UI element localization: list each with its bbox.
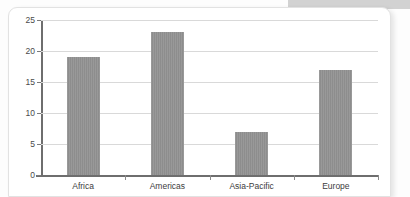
x-axis-line: [36, 175, 378, 177]
gridline: [41, 51, 378, 52]
y-axis-line: [41, 20, 43, 175]
x-axis-category-label: Americas: [125, 182, 209, 191]
y-axis-tick: [37, 144, 41, 145]
bar: [235, 132, 268, 175]
bar-chart-plot-area: 0510152025 AfricaAmericasAsia-PacificEur…: [41, 20, 378, 175]
y-axis-tick: [37, 51, 41, 52]
y-axis-tick-label: 10: [26, 109, 35, 118]
x-axis-category-label: Europe: [294, 182, 378, 191]
y-axis-tick: [37, 20, 41, 21]
x-axis-category-label: Africa: [41, 182, 125, 191]
bar: [67, 57, 100, 175]
y-axis-tick: [37, 82, 41, 83]
y-axis-tick-label: 20: [26, 47, 35, 56]
y-axis-tick-label: 25: [26, 16, 35, 25]
x-axis-tick: [125, 175, 126, 180]
bar: [319, 70, 352, 175]
chart-card: 0510152025 AfricaAmericasAsia-PacificEur…: [8, 7, 391, 197]
y-axis-tick-label: 0: [30, 171, 35, 180]
y-axis-tick-label: 5: [30, 140, 35, 149]
x-axis-tick: [378, 175, 379, 180]
x-axis-tick: [210, 175, 211, 180]
y-axis-tick: [37, 175, 41, 176]
bar: [151, 32, 184, 175]
y-axis-tick-label: 15: [26, 78, 35, 87]
x-axis-category-label: Asia-Pacific: [210, 182, 294, 191]
gridline: [41, 20, 378, 21]
y-axis-tick: [37, 113, 41, 114]
x-axis-tick: [294, 175, 295, 180]
